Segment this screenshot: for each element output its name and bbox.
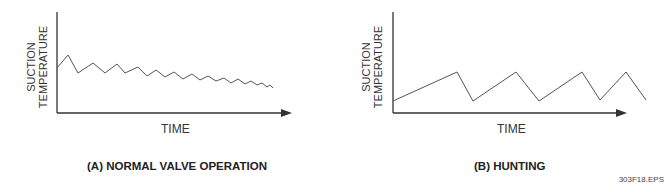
panel-a-caption: (A) NORMAL VALVE OPERATION [87, 160, 267, 172]
figure-file-id: 303F18.EPS [619, 175, 664, 184]
panel-b-curve [393, 72, 646, 101]
panel-b-caption: (B) HUNTING [474, 160, 546, 172]
panel-b-y-label-line1: SUCTION [360, 17, 372, 117]
panel-a-arrowhead-icon [281, 109, 292, 117]
panel-b-arrowhead-icon [616, 109, 627, 117]
panel-a-axes [57, 12, 292, 117]
panel-b-y-label: SUCTION TEMPERATURE [360, 17, 384, 117]
panel-a-curve [57, 55, 273, 88]
panel-b-axes [393, 12, 627, 117]
panel-b-y-label-line2: TEMPERATURE [372, 17, 384, 117]
panel-a-y-label-line1: SUCTION [25, 17, 37, 117]
panel-a-y-label-line2: TEMPERATURE [37, 17, 49, 117]
panel-a-y-label: SUCTION TEMPERATURE [25, 17, 49, 117]
panel-a-x-label: TIME [161, 122, 190, 136]
panel-b-x-label: TIME [497, 122, 526, 136]
